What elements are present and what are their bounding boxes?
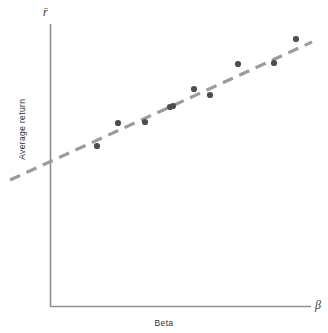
scatter-chart-figure: r̄ β Average return Beta: [0, 0, 328, 333]
data-point: [235, 61, 241, 67]
x-axis-symbol-label: β: [315, 299, 321, 311]
data-point: [207, 92, 213, 98]
y-axis-title: Average return: [18, 91, 27, 167]
regression-dashed-line: [10, 42, 312, 180]
data-point: [142, 119, 148, 125]
data-point: [115, 120, 121, 126]
data-point: [271, 60, 277, 66]
axes-group: [51, 24, 312, 307]
x-axis-title: Beta: [0, 319, 328, 328]
data-points-group: [94, 36, 299, 149]
regression-line-group: [10, 42, 312, 180]
data-point: [191, 86, 197, 92]
plot-canvas: [0, 0, 328, 333]
y-axis-symbol-label: r̄: [43, 6, 48, 18]
data-point: [94, 143, 100, 149]
data-point: [170, 103, 176, 109]
data-point: [293, 36, 299, 42]
